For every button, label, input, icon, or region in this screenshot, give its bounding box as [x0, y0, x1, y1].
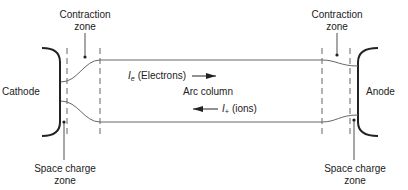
cathode-electrode — [42, 48, 60, 136]
svg-text:zone: zone — [326, 21, 348, 32]
arc-column-top-edge — [61, 60, 358, 82]
arc-discharge-diagram: Ie(Electrons) Arc column I+(ions) Cathod… — [0, 0, 408, 190]
svg-text:Contraction: Contraction — [311, 9, 362, 20]
anode-label: Anode — [366, 86, 395, 97]
arc-column-label: Arc column — [183, 86, 233, 97]
cathode-label: Cathode — [2, 86, 40, 97]
right-contraction-callout: Contraction zone — [311, 9, 362, 57]
ion-current-label: I+(ions) — [222, 103, 257, 115]
arc-column-bottom-edge — [61, 101, 358, 122]
left-space-charge-callout: Space charge zone — [34, 120, 96, 186]
svg-text:zone: zone — [74, 21, 96, 32]
svg-text:zone: zone — [54, 175, 76, 186]
right-space-charge-callout: Space charge zone — [324, 118, 386, 186]
svg-text:zone: zone — [344, 175, 366, 186]
svg-text:Space charge: Space charge — [34, 163, 96, 174]
svg-text:Contraction: Contraction — [59, 9, 110, 20]
svg-text:Space charge: Space charge — [324, 163, 386, 174]
electron-current-label: Ie(Electrons) — [128, 70, 186, 82]
